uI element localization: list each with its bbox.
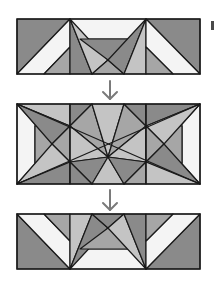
quilt-diagram <box>0 0 215 284</box>
middle-panel <box>17 104 200 184</box>
edge-mark <box>211 21 214 30</box>
bottom-panel <box>17 214 200 269</box>
arrow-down-icon <box>103 190 117 210</box>
top-panel <box>17 19 200 74</box>
arrow-down-icon <box>103 81 117 99</box>
